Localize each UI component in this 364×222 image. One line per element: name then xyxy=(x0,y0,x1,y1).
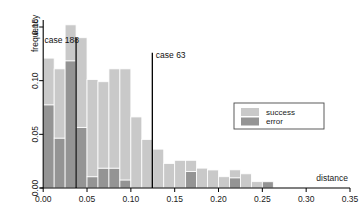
bar-segment-error xyxy=(186,171,197,188)
x-tick-label: 0.00 xyxy=(35,194,52,204)
legend-swatch-error xyxy=(241,118,259,126)
bar-segment-error xyxy=(262,182,273,188)
bar-segment-success xyxy=(120,69,131,180)
bar-segment-success xyxy=(186,160,197,171)
bar-segment-success xyxy=(197,168,208,188)
bar-segment-success xyxy=(109,69,120,168)
bar-segment-success xyxy=(54,69,65,138)
bar-segment-success xyxy=(76,38,87,128)
bar-segment-error xyxy=(120,180,131,188)
bar-segment-success xyxy=(131,117,142,188)
bar-segment-success xyxy=(43,58,54,105)
x-tick-label: 0.30 xyxy=(298,194,315,204)
bar-segment-success xyxy=(251,182,262,188)
y-tick-label: 0.10 xyxy=(30,72,40,89)
case-marker-label: case 188 xyxy=(45,35,80,45)
x-axis-title: distance xyxy=(316,173,348,183)
bar-segment-success xyxy=(240,174,251,188)
bar-segment-error xyxy=(65,61,76,188)
bar-segment-error xyxy=(76,127,87,188)
case-marker-label: case 63 xyxy=(156,50,186,60)
x-tick-label: 0.10 xyxy=(123,194,140,204)
bar-segment-error xyxy=(109,168,120,188)
bar-segment-success xyxy=(164,164,175,188)
y-axis-title: frequency xyxy=(30,14,40,52)
x-tick-label: 0.20 xyxy=(210,194,227,204)
bar-segment-error xyxy=(43,105,54,188)
x-tick-label: 0.05 xyxy=(79,194,96,204)
bar-segment-error xyxy=(87,177,98,188)
bar-segment-success xyxy=(219,177,230,188)
histogram-chart: 0.000.050.100.150.000.050.100.150.200.25… xyxy=(0,0,364,222)
x-tick-label: 0.25 xyxy=(254,194,271,204)
bar-segment-success xyxy=(142,139,153,188)
bar-segment-success xyxy=(98,82,109,168)
bar-segment-error xyxy=(229,178,240,188)
bar-segment-success xyxy=(175,160,186,188)
x-tick-label: 0.35 xyxy=(342,194,359,204)
bar-segment-success xyxy=(153,149,164,188)
bar-segment-success xyxy=(87,80,98,177)
legend-layer: successerror xyxy=(234,103,324,129)
bar-segment-error xyxy=(98,168,109,188)
y-tick-label: 0.05 xyxy=(30,126,40,143)
x-tick-label: 0.15 xyxy=(166,194,183,204)
bar-segment-error xyxy=(54,138,65,188)
legend-label-success: success xyxy=(266,108,295,117)
legend-swatch-success xyxy=(241,108,259,116)
bar-segment-success xyxy=(229,170,240,178)
legend-label-error: error xyxy=(266,117,283,126)
bar-segment-success xyxy=(208,170,219,188)
